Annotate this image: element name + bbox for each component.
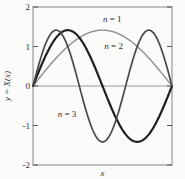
curve-label-n1: n = 1 (103, 14, 122, 24)
curve-label-n3: n = 3 (58, 109, 77, 119)
y-tick-label: 2 (26, 2, 31, 12)
y-tick-label: -2 (23, 160, 31, 170)
curve-label-n2: n = 2 (104, 41, 123, 51)
curve-n1 (33, 30, 172, 86)
x-axis-label: x (100, 168, 105, 178)
plot-area: 210-1-2n = 1n = 2n = 3 (23, 2, 173, 170)
y-tick-label: 0 (26, 81, 31, 91)
y-tick-label: -1 (23, 121, 31, 131)
y-axis-label: y = X(x) (2, 71, 12, 102)
wavefunction-figure: 210-1-2n = 1n = 2n = 3 x y = X(x) (0, 0, 185, 179)
y-tick-label: 1 (26, 42, 31, 52)
wavefunction-chart: 210-1-2n = 1n = 2n = 3 x y = X(x) (0, 0, 185, 179)
